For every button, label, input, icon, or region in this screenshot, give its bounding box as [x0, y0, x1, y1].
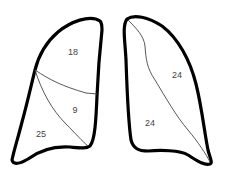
lung-diagram: 18 9 25 24 24 [0, 0, 226, 173]
left-middle-region-label: 9 [72, 106, 77, 115]
left-lower-lobe-label: 25 [36, 130, 46, 139]
left-lung-outline [12, 18, 102, 163]
right-lung-outline [124, 17, 211, 165]
lung-drawing [0, 0, 226, 173]
right-upper-lobe-label: 24 [172, 71, 182, 80]
left-lung-fissure-horizontal [35, 70, 97, 94]
right-lower-lobe-label: 24 [145, 119, 155, 128]
left-upper-lobe-label: 18 [68, 48, 78, 57]
